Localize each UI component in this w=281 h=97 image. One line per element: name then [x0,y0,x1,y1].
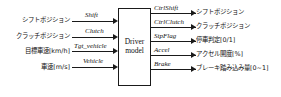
input-label-target-speed: 目標車速[km/h] [25,48,70,54]
input-label-row-1: シフトポジション [0,17,70,25]
input-label-row-4: 車速[m/s] [0,64,70,72]
output-signal-ctrlshift: CtrlShift [154,5,178,12]
input-label-row-2: クラッチポジション [0,33,70,41]
output-label-row-3: 停車判定[0/1] [196,37,281,45]
input-connector-line-4 [72,67,115,68]
driver-model-block-text: Driver model [119,38,150,55]
output-connector-line-3 [151,41,196,42]
input-signal-tgt-vehicle: Tgt_vehicle [74,43,107,50]
output-signal-stpflag: StpFlag [154,33,176,40]
input-label-row-3: 目標車速[km/h] [0,48,70,56]
output-connector-line-4 [151,55,196,56]
input-signal-clutch: Clutch [85,28,104,35]
driver-model-block: Driver model [118,8,151,86]
output-signal-brake: Brake [154,61,171,68]
output-label-stop-flag: 停車判定[0/1] [196,37,235,43]
output-connector-line-2 [151,27,196,28]
output-label-accel-opening: アクセル開度[%] [196,51,243,57]
driver-model-diagram: シフトポジション Shift クラッチポジション Clutch 目標車速[km/… [0,0,281,97]
output-label-clutch-position: クラッチポジション [196,23,250,29]
input-connector-line-1 [72,21,115,22]
input-connector-line-3 [72,51,115,52]
driver-model-block-line2: model [119,47,150,56]
output-label-row-5: ブレーキ踏み込み量[0~1] [196,65,281,73]
output-label-shift-position: シフトポジション [196,9,244,15]
input-label-shift: シフトポジション [22,17,70,23]
output-connector-line-5 [151,69,196,70]
input-signal-vehicle: Vehicle [83,58,103,65]
output-label-row-2: クラッチポジション [196,23,281,31]
output-signal-accel: Accel [154,47,170,54]
output-label-row-1: シフトポジション [196,9,281,17]
output-signal-ctrlclutch: CtrlClutch [154,19,184,26]
output-connector-line-1 [151,13,196,14]
input-label-clutch: クラッチポジション [16,33,70,39]
output-label-row-4: アクセル開度[%] [196,51,281,59]
input-label-vehicle-speed: 車速[m/s] [41,64,70,70]
input-signal-shift: Shift [85,12,98,19]
input-connector-line-2 [72,37,115,38]
output-label-brake-amount: ブレーキ踏み込み量[0~1] [196,65,268,71]
